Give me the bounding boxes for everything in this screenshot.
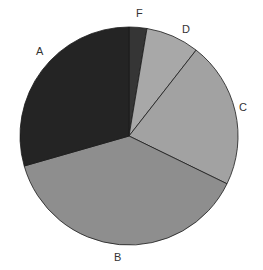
- label-a: A: [36, 46, 43, 57]
- label-d: D: [182, 24, 190, 35]
- label-c: C: [239, 102, 247, 113]
- label-f: F: [136, 8, 143, 19]
- pie-chart: [0, 0, 263, 270]
- label-b: B: [114, 252, 121, 263]
